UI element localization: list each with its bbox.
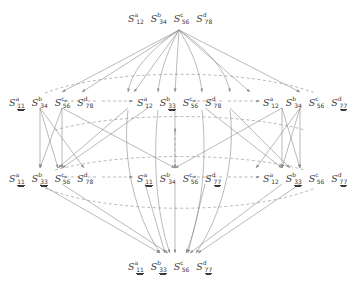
node-S-b-34[interactable]: Sb34 xyxy=(160,173,178,184)
edges-dashed-level2-band xyxy=(45,188,315,208)
node-S-a-11[interactable]: Sa11 xyxy=(128,261,146,272)
node-S-d-77[interactable]: Sd77 xyxy=(205,173,223,184)
node-S-c-56[interactable]: Sc56 xyxy=(174,13,191,24)
node-S-c-56[interactable]: Sc56 xyxy=(183,97,200,108)
edges-level2-to-bottom xyxy=(40,184,300,253)
node-S-a-11[interactable]: Sa11 xyxy=(137,173,155,184)
node-S-a-11[interactable]: Sa11 xyxy=(9,97,27,108)
node-S-c-56[interactable]: Sc56 xyxy=(55,173,72,184)
node-S-c-56[interactable]: Sc56 xyxy=(174,261,191,272)
node-group-l1-center: Sa12 Sb33 Sc56 Sd78 xyxy=(137,97,223,108)
node-S-b-33[interactable]: Sb33 xyxy=(160,97,178,108)
node-S-b-34[interactable]: Sb34 xyxy=(151,13,169,24)
node-group-top: Sa12 Sb34 Sc56 Sd78 xyxy=(128,13,214,24)
node-S-b-33[interactable]: Sb33 xyxy=(151,261,169,272)
node-S-b-34[interactable]: Sb34 xyxy=(32,97,50,108)
node-S-d-77[interactable]: Sd77 xyxy=(331,97,349,108)
node-S-b-34[interactable]: Sb34 xyxy=(286,97,304,108)
node-S-b-33[interactable]: Sb33 xyxy=(286,173,304,184)
node-S-d-78[interactable]: Sd78 xyxy=(196,13,214,24)
node-group-l2-center: Sa11 Sb34 Sc56 Sd77 xyxy=(137,173,223,184)
node-S-d-77[interactable]: Sd77 xyxy=(331,173,349,184)
edges-top-to-level1 xyxy=(62,30,300,92)
node-S-a-12[interactable]: Sa12 xyxy=(263,173,281,184)
node-S-c-56[interactable]: Sc56 xyxy=(55,97,72,108)
node-S-b-33[interactable]: Sb33 xyxy=(32,173,50,184)
node-group-bottom: Sa11 Sb33 Sc56 Sd77 xyxy=(128,261,214,272)
node-group-l2-right: Sa12 Sb33 Sc56 Sd77 xyxy=(263,173,349,184)
diagram-edges xyxy=(0,0,361,289)
node-S-c-56[interactable]: Sc56 xyxy=(183,173,200,184)
node-S-a-11[interactable]: Sa11 xyxy=(9,173,27,184)
node-group-l1-left: Sa11 Sb34 Sc56 Sd78 xyxy=(9,97,95,108)
node-S-d-77[interactable]: Sd77 xyxy=(196,261,214,272)
node-group-l1-right: Sa12 Sb34 Sc56 Sd77 xyxy=(263,97,349,108)
hasse-diagram-canvas: Sa12 Sb34 Sc56 Sd78 Sa11 Sb34 Sc56 Sd78 … xyxy=(0,0,361,289)
node-S-c-56[interactable]: Sc56 xyxy=(309,173,326,184)
node-S-a-12[interactable]: Sa12 xyxy=(263,97,281,108)
node-S-c-56[interactable]: Sc56 xyxy=(309,97,326,108)
edges-dashed-level1-band xyxy=(45,74,315,93)
node-S-d-78[interactable]: Sd78 xyxy=(205,97,223,108)
edges-top-curved xyxy=(128,30,230,92)
node-S-d-78[interactable]: Sd78 xyxy=(77,97,95,108)
node-S-d-78[interactable]: Sd78 xyxy=(77,173,95,184)
node-group-l2-left: Sa11 Sb33 Sc56 Sd78 xyxy=(9,173,95,184)
edges-level1-to-level2 xyxy=(40,108,300,168)
node-S-a-12[interactable]: Sa12 xyxy=(137,97,155,108)
node-S-a-12[interactable]: Sa12 xyxy=(128,13,146,24)
